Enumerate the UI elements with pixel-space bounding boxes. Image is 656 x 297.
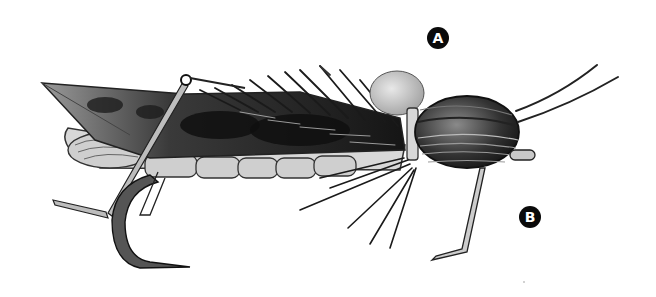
front-leg (432, 168, 485, 260)
callout-badge-a: A (427, 27, 449, 49)
callout-badge-b: B (519, 206, 541, 228)
head (415, 96, 519, 168)
antennae (516, 65, 618, 122)
fly-illustration (0, 0, 656, 297)
hook-eye (510, 150, 535, 160)
